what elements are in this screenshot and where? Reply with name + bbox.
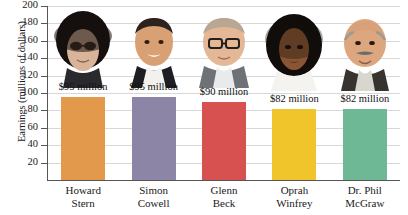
tick-mark-80 <box>41 110 47 111</box>
howard-stern-photo <box>50 6 116 88</box>
y-tick-label-120: 120 <box>14 70 38 81</box>
bar <box>61 97 105 180</box>
y-tick-label-200: 200 <box>14 0 38 11</box>
tick-mark-200 <box>41 6 47 7</box>
bar <box>272 109 316 180</box>
y-tick-label-180: 180 <box>14 17 38 28</box>
category-label-line: Dr. Phil <box>322 184 408 197</box>
bar-value-label: $82 million <box>322 93 408 104</box>
y-tick-label-160: 160 <box>14 35 38 46</box>
y-tick-label-100: 100 <box>14 87 38 98</box>
tick-mark-20 <box>41 163 47 164</box>
tick-mark-160 <box>41 41 47 42</box>
tick-mark-60 <box>41 128 47 129</box>
y-tick-label-80: 80 <box>14 104 38 115</box>
simon-cowell-photo <box>121 6 187 88</box>
oprah-winfrey-photo <box>261 9 327 91</box>
tick-mark-140 <box>41 58 47 59</box>
dr-phil-mcgraw-photo <box>332 9 398 91</box>
bar <box>202 102 246 180</box>
glenn-beck-photo <box>191 6 257 88</box>
y-tick-label-140: 140 <box>14 52 38 63</box>
tick-mark-40 <box>41 145 47 146</box>
tick-mark-100 <box>41 93 47 94</box>
tick-mark-120 <box>41 76 47 77</box>
x-axis-line <box>47 180 400 181</box>
bar <box>343 109 387 180</box>
y-axis-line <box>47 6 48 181</box>
y-tick-label-60: 60 <box>14 122 38 133</box>
bar-chart: Earnings (millions of dollars) <box>0 0 408 215</box>
category-label-line: McGraw <box>322 197 408 210</box>
tick-mark-180 <box>41 23 47 24</box>
category-label: Dr. PhilMcGraw <box>322 184 408 210</box>
y-tick-label-40: 40 <box>14 139 38 150</box>
y-tick-label-20: 20 <box>14 157 38 168</box>
bar <box>132 97 176 180</box>
